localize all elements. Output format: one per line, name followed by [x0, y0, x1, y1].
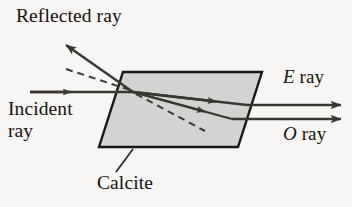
calcite-label: Calcite: [97, 173, 153, 193]
calcite-crystal-shape: [99, 72, 262, 147]
e-ray-label: E ray: [283, 67, 324, 86]
e-ray-symbol: E: [283, 66, 295, 87]
reflected-ray-label: Reflected ray: [16, 6, 122, 26]
o-ray-symbol: O: [283, 123, 297, 144]
incident-ray-label-line2: ray: [8, 121, 73, 141]
o-ray-label: O ray: [283, 124, 326, 143]
incident-ray-label-line1: Incident: [8, 98, 73, 119]
reflected-ray-line: [66, 45, 133, 92]
incident-ray-label: Incidentray: [8, 99, 73, 141]
figure-canvas: Reflected ray Incidentray Calcite E ray …: [0, 0, 352, 207]
calcite-leader-line: [116, 149, 133, 172]
o-ray-word: ray: [297, 123, 326, 144]
e-ray-word: ray: [295, 66, 324, 87]
